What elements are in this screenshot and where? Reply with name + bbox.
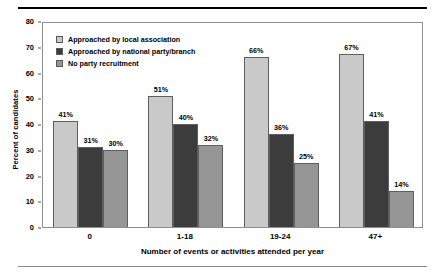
y-tick-label-30: 30	[26, 147, 34, 155]
y-tick-label-40: 40	[26, 121, 34, 129]
y-tick-label-20: 20	[26, 173, 34, 181]
bottom-divider-rule	[18, 266, 427, 267]
y-tick-label-0: 0	[30, 224, 34, 232]
bar-value-label: 30%	[108, 140, 122, 147]
bar-value-label: 41%	[58, 111, 72, 118]
y-tick-mark-80	[38, 22, 41, 23]
x-tick-label-19-24: 19-24	[270, 232, 290, 241]
bar-19-24-series1[interactable]: 66%	[244, 57, 269, 227]
bar-value-label: 66%	[249, 47, 263, 54]
y-tick-mark-0	[38, 228, 41, 229]
y-tick-label-70: 70	[26, 44, 34, 52]
bar-slot: 66%	[244, 23, 269, 227]
bar-value-label: 67%	[344, 44, 358, 51]
bar-value-label: 36%	[274, 124, 288, 131]
bar-slot: 25%	[294, 23, 319, 227]
bar-group-47+: 67%41%14%	[329, 23, 424, 227]
plot-inner: Approached by local association Approach…	[43, 23, 422, 227]
y-tick-mark-30	[38, 150, 41, 151]
bar-value-label: 31%	[83, 137, 97, 144]
legend-label-local-association: Approached by local association	[68, 36, 180, 43]
legend-item: Approached by local association	[56, 35, 195, 44]
bar-group-19-24: 66%36%25%	[234, 23, 329, 227]
legend-label-no-recruitment: No party recruitment	[68, 60, 139, 67]
chart-legend: Approached by local association Approach…	[56, 35, 195, 72]
bar-19-24-series3[interactable]: 25%	[294, 163, 319, 227]
x-tick-label-1-18: 1-18	[177, 232, 193, 241]
bar-1-18-series1[interactable]: 51%	[148, 96, 173, 227]
bar-19-24-series2[interactable]: 36%	[269, 134, 294, 227]
bar-value-label: 40%	[179, 114, 193, 121]
legend-swatch-local-association	[56, 36, 63, 43]
bar-slot: 14%	[389, 23, 414, 227]
y-tick-label-50: 50	[26, 96, 34, 104]
bar-slot: 32%	[198, 23, 223, 227]
bar-0-series1[interactable]: 41%	[53, 121, 78, 227]
bar-slot: 67%	[339, 23, 364, 227]
y-tick-label-80: 80	[26, 18, 34, 26]
bar-value-label: 14%	[394, 181, 408, 188]
plot-area: Approached by local association Approach…	[42, 22, 423, 228]
bar-value-label: 32%	[204, 135, 218, 142]
bar-0-series3[interactable]: 30%	[103, 150, 128, 227]
y-tick-mark-50	[38, 99, 41, 100]
bar-slot: 36%	[269, 23, 294, 227]
y-tick-mark-70	[38, 47, 41, 48]
bar-value-label: 25%	[299, 153, 313, 160]
bar-47+-series3[interactable]: 14%	[389, 191, 414, 227]
y-tick-mark-20	[38, 176, 41, 177]
bar-value-label: 41%	[369, 111, 383, 118]
x-tick-label-47+: 47+	[369, 232, 383, 241]
bar-0-series2[interactable]: 31%	[78, 147, 103, 227]
legend-label-national-party: Approached by national party/branch	[68, 48, 195, 55]
bar-value-label: 51%	[154, 86, 168, 93]
x-axis-tick-labels: 01-1819-2447+	[42, 232, 423, 244]
legend-swatch-no-recruitment	[56, 60, 63, 67]
y-axis-tick-labels: 01020304050607080	[16, 22, 38, 228]
y-tick-mark-40	[38, 125, 41, 126]
y-tick-mark-60	[38, 73, 41, 74]
y-tick-label-60: 60	[26, 70, 34, 78]
bar-47+-series1[interactable]: 67%	[339, 54, 364, 227]
y-tick-mark-10	[38, 202, 41, 203]
bar-chart-figure: Percent of candidates 01020304050607080 …	[0, 0, 433, 275]
legend-item: No party recruitment	[56, 59, 195, 68]
y-tick-label-10: 10	[26, 199, 34, 207]
legend-item: Approached by national party/branch	[56, 47, 195, 56]
legend-swatch-national-party	[56, 48, 63, 55]
bar-47+-series2[interactable]: 41%	[364, 121, 389, 227]
bar-slot: 41%	[364, 23, 389, 227]
bar-1-18-series3[interactable]: 32%	[198, 145, 223, 227]
x-tick-label-0: 0	[87, 232, 91, 241]
bar-1-18-series2[interactable]: 40%	[173, 124, 198, 227]
x-axis-title: Number of events or activities attended …	[42, 247, 423, 256]
